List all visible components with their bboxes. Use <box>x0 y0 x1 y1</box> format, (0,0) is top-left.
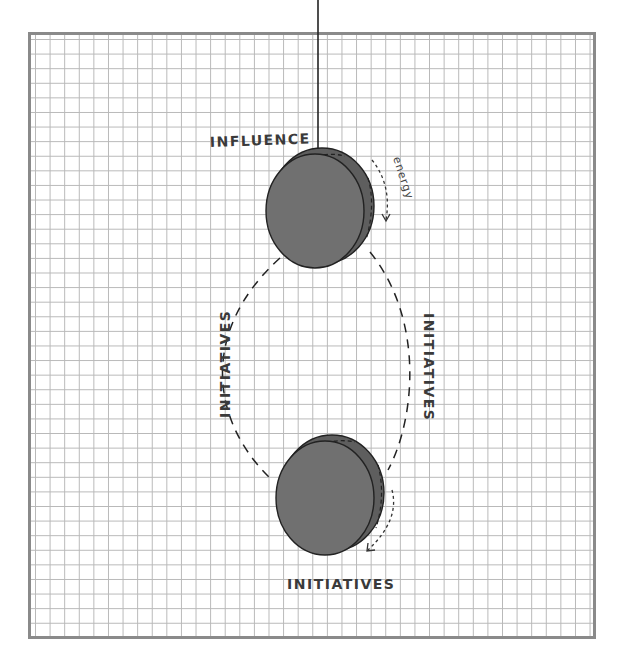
energy-arrow: energy <box>372 155 416 221</box>
top-disc <box>266 148 374 268</box>
bottom-disc <box>276 435 384 555</box>
influence-label: INFLUENCE <box>210 130 311 150</box>
right-initiatives-label: INITIATIVES <box>421 313 437 421</box>
yo-yo-diagram: energy INFLUENCE INITIATIVES INITIATIVES… <box>0 0 620 665</box>
left-initiatives-label: INITIATIVES <box>217 310 233 418</box>
right-dashed-arc <box>370 252 410 470</box>
energy-label: energy <box>390 155 416 201</box>
bottom-initiatives-label: INITIATIVES <box>287 576 395 592</box>
